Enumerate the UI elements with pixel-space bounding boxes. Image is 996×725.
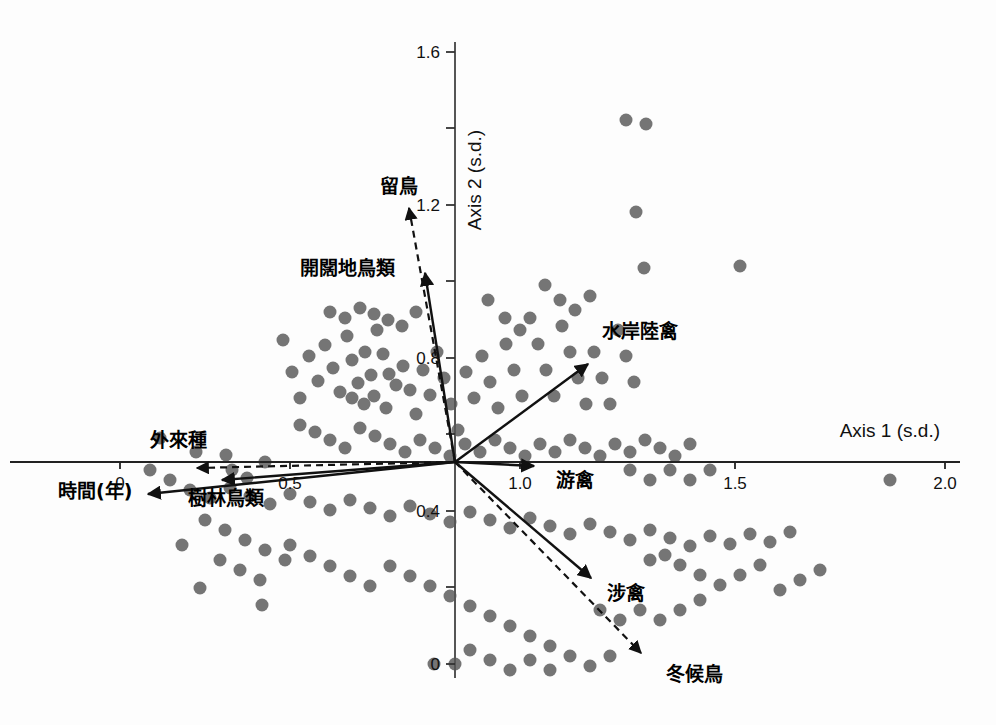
y-axis-tick-label: 1.6 xyxy=(416,43,440,62)
scatter-point xyxy=(544,664,557,677)
x-axis-tick-label: 1.0 xyxy=(508,474,532,493)
scatter-point xyxy=(277,334,290,347)
scatter-point xyxy=(199,514,212,527)
scatter-point xyxy=(414,434,427,447)
scatter-point xyxy=(369,430,382,443)
scatter-point xyxy=(532,338,545,351)
vector-label-resident-bird: 留鳥 xyxy=(380,175,418,197)
scatter-point xyxy=(624,464,637,477)
scatter-point xyxy=(504,664,517,677)
scatter-point xyxy=(384,560,397,573)
scatter-point xyxy=(508,364,521,377)
vector-label-wading-bird: 涉禽 xyxy=(607,582,646,604)
scatter-point xyxy=(694,594,707,607)
scatter-point xyxy=(176,539,189,552)
scatter-point xyxy=(365,369,378,382)
scatter-point xyxy=(534,438,547,451)
scatter-point xyxy=(484,376,497,389)
scatter-point xyxy=(684,438,697,451)
scatter-point xyxy=(319,339,332,352)
scatter-point xyxy=(380,402,393,415)
scatter-point xyxy=(390,379,403,392)
scatter-point xyxy=(424,389,437,402)
scatter-point xyxy=(424,580,437,593)
figure-canvas: 00.51.01.52.01.61.20.80.40 Axis 1 (s.d.)… xyxy=(0,0,996,725)
scatter-point xyxy=(584,290,597,303)
scatter-point xyxy=(294,419,307,432)
scatter-point xyxy=(284,539,297,552)
scatter-point xyxy=(460,366,473,379)
y-axis-tick-label: 1.2 xyxy=(416,196,440,215)
ordination-biplot-svg: 00.51.01.52.01.61.20.80.40 Axis 1 (s.d.)… xyxy=(0,0,996,725)
scatter-point xyxy=(724,538,737,551)
vector-waterside-land-bird xyxy=(455,364,588,462)
vector-label-winter-migrant: 冬候鳥 xyxy=(666,663,723,685)
scatter-point xyxy=(540,364,553,377)
scatter-point xyxy=(640,118,653,131)
scatter-point xyxy=(327,362,340,375)
scatter-point xyxy=(368,390,381,403)
scatter-point xyxy=(714,579,727,592)
scatter-point xyxy=(654,442,667,455)
scatter-point xyxy=(564,528,577,541)
scatter-point xyxy=(324,504,337,517)
scatter-point xyxy=(429,442,442,455)
vector-label-open-land-bird: 開闊地鳥類 xyxy=(300,257,396,279)
scatter-point xyxy=(464,506,477,519)
scatter-point xyxy=(659,549,672,562)
scatter-point xyxy=(814,564,827,577)
scatter-point xyxy=(504,620,517,633)
scatter-point xyxy=(564,434,577,447)
scatter-point xyxy=(774,584,787,597)
scatter-point xyxy=(410,306,423,319)
scatter-point xyxy=(476,350,489,363)
scatter-point xyxy=(214,554,227,567)
scatter-point xyxy=(324,434,337,447)
scatter-point xyxy=(410,408,423,421)
scatter-point xyxy=(468,392,481,405)
scatter-point xyxy=(704,464,717,477)
scatter-point xyxy=(364,580,377,593)
scatter-point xyxy=(639,434,652,447)
scatter-point xyxy=(544,520,557,533)
scatter-point xyxy=(484,514,497,527)
scatter-point xyxy=(482,294,495,307)
scatter-point xyxy=(628,376,641,389)
vector-label-waterside-land-bird: 水岸陸禽 xyxy=(602,320,679,342)
scatter-point xyxy=(309,426,322,439)
scatter-point xyxy=(344,494,357,507)
scatter-point xyxy=(638,262,651,275)
scatter-point xyxy=(279,554,292,567)
x-axis-title: Axis 1 (s.d.) xyxy=(840,420,940,441)
scatter-point xyxy=(368,308,381,321)
scatter-point xyxy=(754,559,767,572)
scatter-point xyxy=(396,320,409,333)
scatter-point xyxy=(312,375,325,388)
scatter-point xyxy=(644,474,657,487)
scatter-point xyxy=(516,390,529,403)
scatter-point xyxy=(499,312,512,325)
scatter-point xyxy=(339,312,352,325)
scatter-point xyxy=(294,392,307,405)
scatter-point xyxy=(500,338,513,351)
scatter-point xyxy=(286,366,299,379)
scatter-point xyxy=(784,526,797,539)
scatter-point xyxy=(620,114,633,127)
scatter-point xyxy=(674,559,687,572)
scatter-point xyxy=(226,464,239,477)
scatter-point xyxy=(504,442,517,455)
scatter-point xyxy=(684,474,697,487)
scatter-point xyxy=(404,500,417,513)
scatter-point xyxy=(339,442,352,455)
scatter-point xyxy=(554,294,567,307)
vector-label-time-years: 時間(年) xyxy=(58,480,132,502)
scatter-point xyxy=(359,346,372,359)
y-axis-tick-label: 0 xyxy=(431,655,440,674)
scatter-point xyxy=(624,534,637,547)
scatter-point xyxy=(346,354,359,367)
scatter-point xyxy=(304,496,317,509)
scatter-point xyxy=(594,450,607,463)
scatter-point xyxy=(564,346,577,359)
scatter-point xyxy=(492,402,505,415)
scatter-point xyxy=(364,502,377,515)
